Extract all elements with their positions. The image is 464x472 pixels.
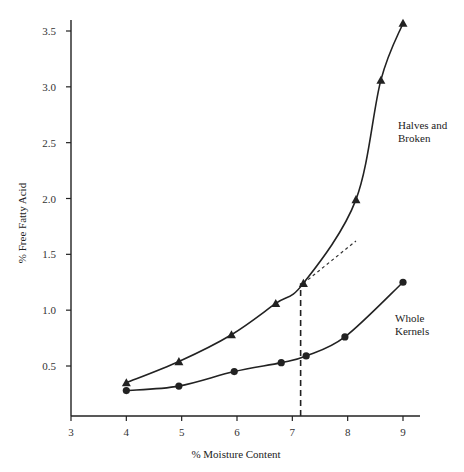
- series-curve: [126, 282, 403, 390]
- circle-marker: [123, 387, 130, 394]
- x-tick-label: 4: [124, 426, 130, 438]
- x-tick-label: 9: [400, 426, 406, 438]
- x-tick-label: 3: [68, 426, 74, 438]
- y-tick-label: 2.5: [42, 137, 56, 149]
- y-tick-label: 1.5: [42, 248, 56, 260]
- halves-broken-series: [122, 19, 408, 387]
- whole-kernels-label-line2: Kernels: [395, 325, 429, 337]
- triangle-marker: [227, 330, 236, 338]
- circle-marker: [399, 279, 406, 286]
- annotations: [301, 241, 356, 416]
- circle-marker: [175, 383, 182, 390]
- whole-kernels-label-line1: Whole: [395, 312, 424, 324]
- y-axis-label: % Free Fatty Acid: [16, 182, 28, 263]
- x-tick-label: 8: [345, 426, 351, 438]
- circle-marker: [341, 333, 348, 340]
- x-axis-label: % Moisture Content: [191, 448, 280, 460]
- triangle-marker: [271, 299, 280, 307]
- y-tick-label: 3.5: [42, 25, 56, 37]
- series-curve: [126, 23, 403, 383]
- circle-marker: [303, 352, 310, 359]
- y-tick-label: 2.0: [42, 193, 56, 205]
- x-tick-label: 5: [179, 426, 185, 438]
- x-tick-label: 6: [234, 426, 240, 438]
- y-ticks: 0.51.01.52.02.53.03.5: [42, 25, 71, 372]
- y-tick-label: 0.5: [42, 360, 56, 372]
- whole-kernels-series: [123, 279, 407, 395]
- y-tick-label: 3.0: [42, 81, 56, 93]
- x-tick-label: 7: [290, 426, 296, 438]
- halves-broken-label-line2: Broken: [398, 132, 431, 144]
- series: [122, 19, 408, 394]
- triangle-marker: [399, 19, 408, 27]
- triangle-marker: [376, 76, 385, 84]
- y-tick-label: 1.0: [42, 304, 56, 316]
- x-ticks: 3456789: [68, 416, 406, 438]
- triangle-marker: [174, 357, 183, 365]
- chart: 0.51.01.52.02.53.03.5 3456789 % Moisture…: [0, 0, 464, 472]
- circle-marker: [278, 359, 285, 366]
- axes: [71, 20, 420, 416]
- circle-marker: [231, 368, 238, 375]
- triangle-marker: [351, 195, 360, 203]
- halves-broken-label-line1: Halves and: [398, 119, 448, 131]
